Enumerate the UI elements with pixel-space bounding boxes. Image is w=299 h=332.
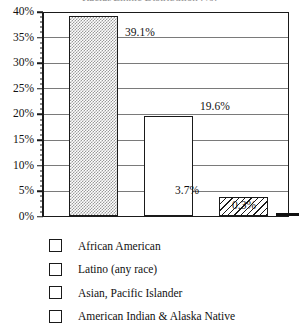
legend-item-asian-pacific-islander[interactable]: Asian, Pacific Islander [49, 281, 299, 305]
legend-item-african-american[interactable]: African American [49, 234, 299, 258]
y-tick-label-30: 30% [13, 57, 34, 69]
y-tick-label-25: 25% [13, 83, 34, 95]
y-tick-label-0: 0% [19, 211, 34, 223]
y-tick-label-10: 10% [13, 160, 34, 172]
legend-label-african-american: African American [78, 240, 161, 252]
legend: African American Latino (any race) Asian… [49, 234, 299, 328]
legend-item-american-indian-alaska-native[interactable]: American Indian & Alaska Native [49, 305, 299, 329]
bar-value-latino: 19.6% [200, 101, 230, 113]
plot-area: 39.1% 19.6% 3.7% 0.3% [43, 12, 289, 217]
legend-label-asian-pacific-islander: Asian, Pacific Islander [78, 287, 182, 299]
legend-swatch-solid-icon [49, 310, 62, 323]
legend-swatch-checker-icon [49, 239, 62, 252]
bar-value-american-indian-alaska-native: 0.3% [232, 200, 256, 212]
bar-value-asian-pacific-islander: 3.7% [175, 185, 199, 197]
legend-item-latino[interactable]: Latino (any race) [49, 258, 299, 282]
y-tick-label-15: 15% [13, 134, 34, 146]
y-axis: 40% 35% 30% 25% 20% 15% 10% 5% 0% [0, 0, 43, 232]
bar-latino[interactable] [144, 116, 193, 216]
legend-swatch-diagonal-icon [49, 286, 62, 299]
y-tick-label-20: 20% [13, 109, 34, 121]
legend-swatch-white-icon [49, 263, 62, 276]
chart-title: Racial/Ethnic Distribution (%) [0, 0, 299, 1]
y-tick-label-5: 5% [19, 185, 34, 197]
bar-value-african-american: 39.1% [125, 27, 155, 39]
bar-chart-figure: Racial/Ethnic Distribution (%) 40% 35% 3… [0, 0, 299, 332]
legend-label-american-indian-alaska-native: American Indian & Alaska Native [78, 310, 235, 322]
bar-american-indian-alaska-native[interactable] [276, 213, 299, 217]
bar-african-american[interactable] [69, 16, 118, 216]
legend-label-latino: Latino (any race) [78, 263, 157, 275]
y-tick-label-40: 40% [13, 6, 34, 18]
y-tick-label-35: 35% [13, 32, 34, 44]
